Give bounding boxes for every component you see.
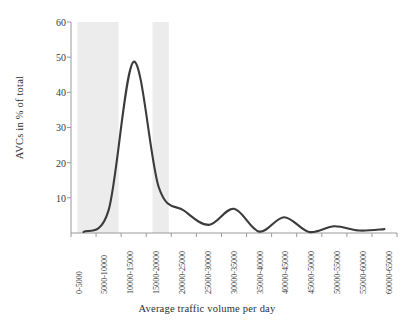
data-series-line (84, 62, 385, 233)
highlight-bands (77, 22, 169, 233)
plot-area (0, 0, 414, 327)
x-axis-title: Average traffic volume per day (0, 303, 414, 314)
x-axis-ticks (71, 233, 397, 237)
y-axis-ticks (67, 22, 71, 198)
highlight-band (77, 22, 118, 233)
chart-figure: AVCs in % of total 60 50 40 30 20 10 0-5… (0, 0, 414, 327)
